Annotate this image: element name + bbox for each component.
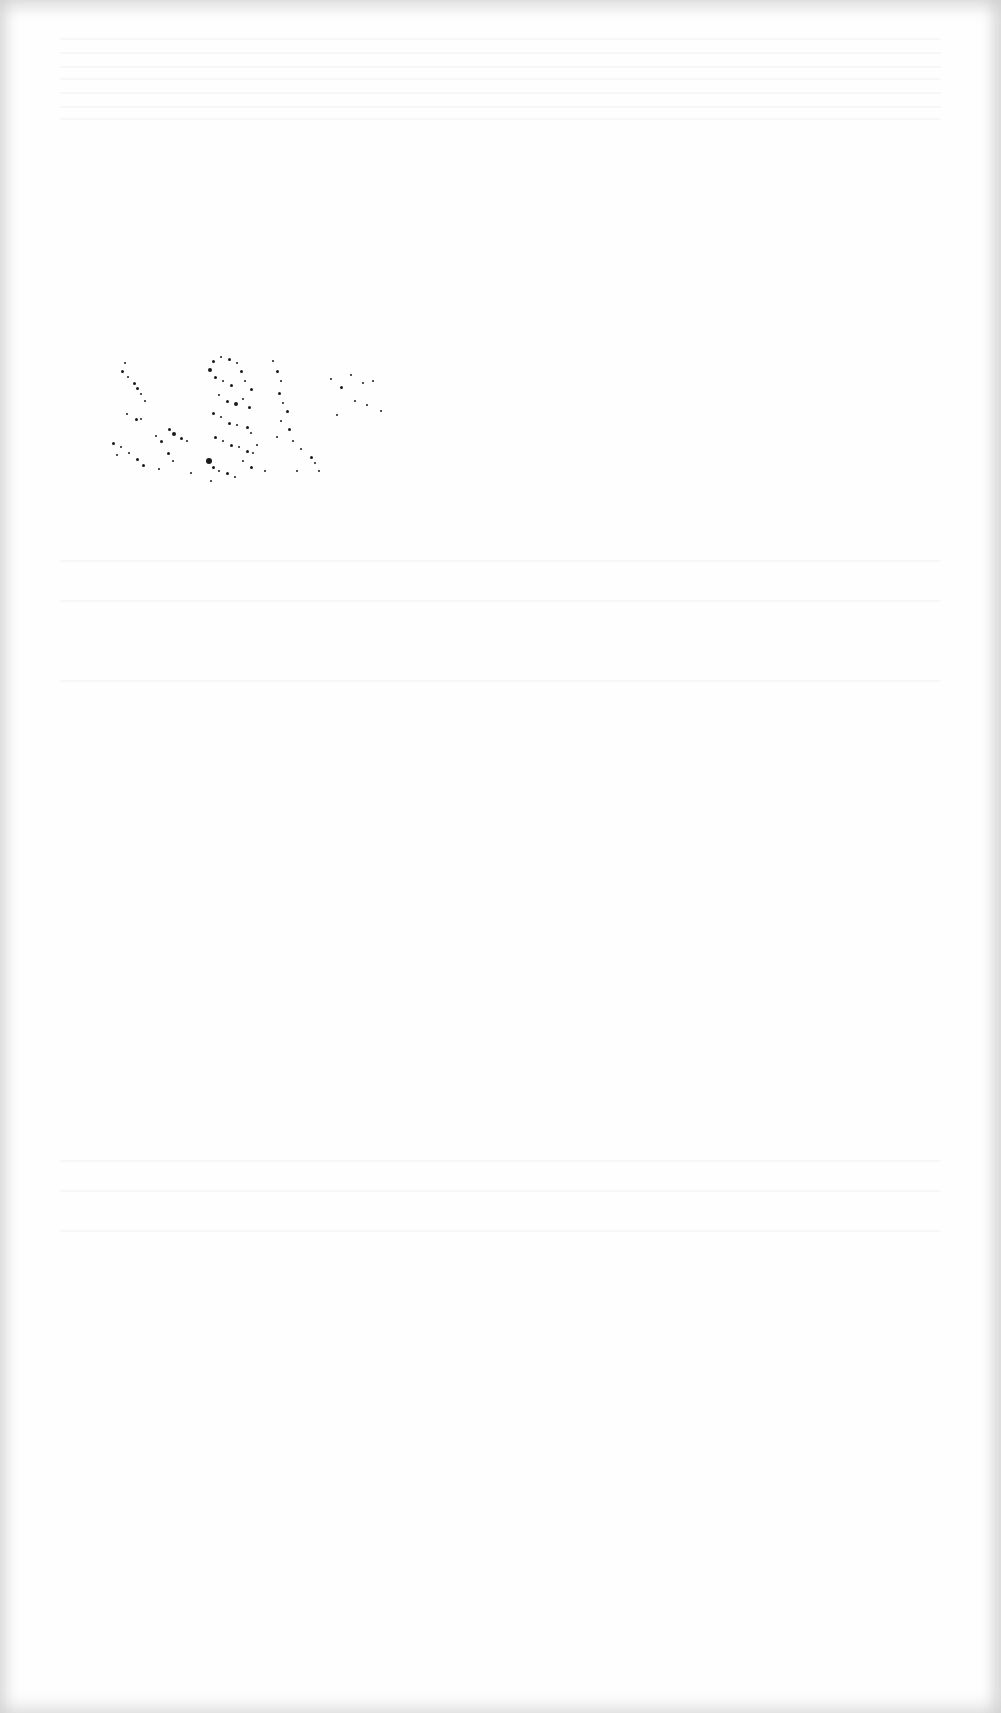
speckle-dot bbox=[280, 380, 282, 382]
scanned-page bbox=[0, 0, 1001, 1713]
bleed-through-line bbox=[60, 1190, 941, 1192]
speckle-dot bbox=[264, 470, 266, 472]
speckle-dot bbox=[220, 356, 222, 358]
speckle-dot bbox=[288, 428, 291, 431]
speckle-dot bbox=[242, 398, 244, 400]
speckle-dot bbox=[234, 476, 236, 478]
speckle-dot bbox=[252, 452, 254, 454]
bleed-through-line bbox=[60, 52, 941, 54]
speckle-dot bbox=[220, 416, 222, 418]
speckle-dot bbox=[246, 426, 249, 429]
speckle-dot bbox=[330, 378, 332, 380]
speckle-dot bbox=[256, 444, 258, 446]
speckle-dot bbox=[350, 374, 352, 376]
speckle-dot bbox=[226, 400, 229, 403]
speckle-dot bbox=[128, 452, 130, 454]
speckle-dot bbox=[222, 440, 224, 442]
speckle-dot bbox=[244, 380, 246, 382]
speckle-dot bbox=[280, 420, 282, 422]
bleed-through-line bbox=[60, 66, 941, 68]
speckle-dot bbox=[238, 446, 240, 448]
speckle-dot bbox=[214, 376, 217, 379]
speckle-dot bbox=[140, 418, 142, 420]
speckle-dot bbox=[362, 382, 364, 384]
speckle-dot bbox=[121, 370, 124, 373]
speckle-dot bbox=[212, 360, 215, 363]
bleed-through-line bbox=[60, 600, 941, 602]
speckle-dot bbox=[112, 442, 115, 445]
bleed-through-line bbox=[60, 118, 941, 120]
speckle-dot bbox=[236, 362, 238, 364]
speckle-dot bbox=[228, 422, 231, 425]
speckle-dot bbox=[136, 458, 139, 461]
speckle-dot bbox=[160, 440, 163, 443]
speckle-dot bbox=[167, 452, 170, 455]
speckle-dot bbox=[210, 480, 212, 482]
speckle-dot bbox=[172, 460, 174, 462]
speckle-noise-region bbox=[100, 340, 380, 475]
bleed-through-line bbox=[60, 92, 941, 94]
speckle-dot bbox=[380, 410, 382, 412]
speckle-dot bbox=[276, 436, 278, 438]
speckle-dot bbox=[135, 418, 138, 421]
speckle-dot bbox=[278, 392, 281, 395]
speckle-dot bbox=[250, 466, 253, 469]
speckle-dot bbox=[208, 368, 212, 372]
speckle-dot bbox=[186, 440, 188, 442]
speckle-dot bbox=[310, 456, 313, 459]
speckle-dot bbox=[234, 402, 238, 406]
speckle-dot bbox=[242, 460, 244, 462]
speckle-dot bbox=[372, 380, 374, 382]
speckle-dot bbox=[292, 440, 294, 442]
scan-border bbox=[0, 0, 1001, 1713]
speckle-dot bbox=[230, 444, 233, 447]
speckle-dot bbox=[172, 432, 176, 436]
speckle-dot bbox=[212, 412, 215, 415]
speckle-dot bbox=[142, 464, 145, 467]
speckle-dot bbox=[126, 413, 128, 415]
speckle-dot bbox=[248, 406, 251, 409]
speckle-dot bbox=[236, 424, 238, 426]
bleed-through-line bbox=[60, 106, 941, 108]
speckle-dot bbox=[276, 370, 279, 373]
speckle-dot bbox=[133, 382, 136, 385]
speckle-dot bbox=[282, 402, 284, 404]
speckle-dot bbox=[206, 458, 212, 464]
speckle-dot bbox=[340, 386, 343, 389]
speckle-dot bbox=[190, 472, 192, 474]
speckle-dot bbox=[222, 380, 224, 382]
speckle-dot bbox=[124, 362, 126, 364]
speckle-dot bbox=[314, 462, 316, 464]
speckle-dot bbox=[212, 466, 215, 469]
speckle-dot bbox=[158, 468, 160, 470]
speckle-dot bbox=[218, 394, 220, 396]
speckle-dot bbox=[250, 388, 253, 391]
speckle-dot bbox=[366, 404, 368, 406]
speckle-dot bbox=[116, 454, 118, 456]
speckle-dot bbox=[120, 446, 122, 448]
speckle-dot bbox=[228, 358, 231, 361]
speckle-dot bbox=[240, 370, 243, 373]
speckle-dot bbox=[300, 448, 302, 450]
speckle-dot bbox=[286, 410, 289, 413]
speckle-dot bbox=[168, 428, 171, 431]
speckle-dot bbox=[230, 384, 233, 387]
bleed-through-line bbox=[60, 680, 941, 682]
speckle-dot bbox=[296, 470, 298, 472]
speckle-dot bbox=[272, 360, 274, 362]
speckle-dot bbox=[226, 472, 229, 475]
speckle-dot bbox=[144, 400, 146, 402]
speckle-dot bbox=[246, 450, 249, 453]
speckle-dot bbox=[155, 435, 157, 437]
speckle-dot bbox=[214, 436, 217, 439]
speckle-dot bbox=[218, 470, 220, 472]
speckle-dot bbox=[354, 400, 356, 402]
speckle-dot bbox=[136, 387, 139, 390]
speckle-dot bbox=[318, 470, 320, 472]
bleed-through-line bbox=[60, 560, 941, 562]
bleed-through-line bbox=[60, 78, 941, 80]
bleed-through-line bbox=[60, 1160, 941, 1162]
speckle-dot bbox=[127, 376, 129, 378]
speckle-dot bbox=[140, 393, 142, 395]
bleed-through-line bbox=[60, 1230, 941, 1232]
